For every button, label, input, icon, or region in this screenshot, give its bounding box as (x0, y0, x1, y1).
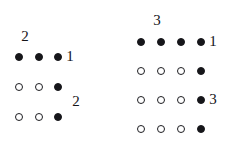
filled-dot (197, 125, 205, 133)
filled-dot (177, 38, 185, 46)
right-dot-diagram: 313 (0, 0, 240, 159)
open-dot (157, 67, 165, 75)
open-dot (157, 96, 165, 104)
right-column-count-label: 3 (147, 13, 167, 28)
filled-dot (157, 38, 165, 46)
right-row-3-label: 3 (203, 92, 223, 107)
open-dot (177, 67, 185, 75)
open-dot (137, 125, 145, 133)
right-row-1-label: 1 (203, 34, 223, 49)
filled-dot (137, 38, 145, 46)
dot-diagram-figure: 212313 (0, 0, 240, 159)
open-dot (177, 96, 185, 104)
open-dot (177, 125, 185, 133)
filled-dot (197, 67, 205, 75)
open-dot (137, 67, 145, 75)
open-dot (137, 96, 145, 104)
open-dot (157, 125, 165, 133)
